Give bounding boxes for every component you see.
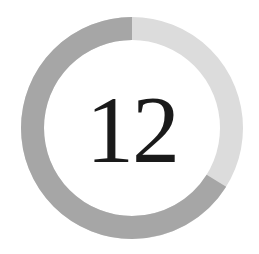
progress-value: 12 [82, 80, 182, 180]
